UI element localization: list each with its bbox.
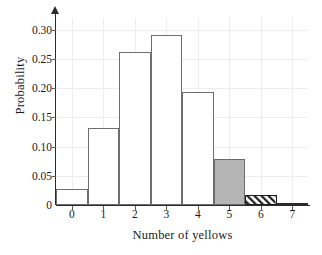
- x-tick-label: 2: [123, 208, 147, 220]
- histogram-bar: [151, 35, 183, 205]
- histogram-bar: [88, 128, 120, 205]
- y-tick-mark: [52, 59, 56, 60]
- histogram-bar: [214, 159, 246, 205]
- y-tick-label: 0.10: [10, 141, 52, 153]
- gridline-horizontal: [56, 30, 308, 31]
- x-axis-line: [56, 205, 310, 206]
- y-tick-label: 0.15: [10, 111, 52, 123]
- x-tick-mark: [292, 206, 293, 210]
- y-tick-label: 0.05: [10, 170, 52, 182]
- gridline-horizontal: [56, 88, 308, 89]
- gridline-vertical: [261, 18, 262, 205]
- y-tick-label: 0.20: [10, 82, 52, 94]
- x-tick-mark: [166, 206, 167, 210]
- x-tick-mark: [229, 206, 230, 210]
- y-tick-mark: [52, 30, 56, 31]
- x-tick-label: 1: [91, 208, 115, 220]
- histogram-bar: [182, 92, 214, 205]
- x-tick-label: 7: [280, 208, 304, 220]
- y-tick-mark: [52, 176, 56, 177]
- histogram-bar: [56, 189, 88, 205]
- x-tick-mark: [72, 206, 73, 210]
- x-tick-label: 3: [154, 208, 178, 220]
- y-tick-label: 0.30: [10, 24, 52, 36]
- y-tick-label: 0: [10, 199, 52, 211]
- x-axis-title: Number of yellows: [55, 228, 310, 243]
- x-tick-label: 5: [217, 208, 241, 220]
- y-tick-labels: 00.050.100.150.200.250.30: [6, 0, 52, 255]
- gridline-vertical: [292, 18, 293, 205]
- x-tick-label: 6: [249, 208, 273, 220]
- x-tick-mark: [135, 206, 136, 210]
- y-axis-arrow-icon: [51, 6, 59, 14]
- x-tick-mark: [103, 206, 104, 210]
- gridline-horizontal: [56, 59, 308, 60]
- x-tick-label: 0: [60, 208, 84, 220]
- y-tick-mark: [52, 88, 56, 89]
- x-tick-mark: [198, 206, 199, 210]
- y-tick-label: 0.25: [10, 53, 52, 65]
- x-tick-mark: [261, 206, 262, 210]
- hatch-pattern-icon: [246, 196, 276, 205]
- histogram-chart: Probability 00.050.100.150.200.250.30 01…: [0, 0, 322, 255]
- histogram-bar: [245, 195, 277, 206]
- y-tick-mark: [52, 117, 56, 118]
- histogram-bar: [119, 52, 151, 205]
- gridline-vertical: [72, 18, 73, 205]
- plot-area: [56, 18, 308, 205]
- y-tick-mark: [52, 147, 56, 148]
- x-tick-label: 4: [186, 208, 210, 220]
